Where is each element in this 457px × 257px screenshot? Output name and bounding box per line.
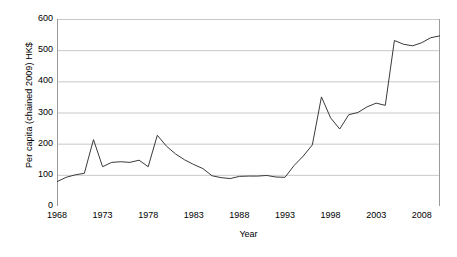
y-axis-tick-label: 0 (23, 201, 53, 210)
x-axis-tick-label: 1968 (37, 210, 77, 221)
x-axis-tick-label: 1978 (128, 210, 168, 221)
plot-svg (57, 19, 440, 206)
y-axis-tick-label: 400 (23, 76, 53, 85)
x-axis-tick-labels: 196819731978198319881993199820032008 (0, 210, 457, 224)
x-axis-tick-label: 1993 (265, 210, 305, 221)
x-axis-tick-label: 1988 (219, 210, 259, 221)
y-axis-tick-label: 600 (23, 14, 53, 23)
x-axis-tick-label: 2008 (402, 210, 442, 221)
data-series-line (57, 36, 440, 182)
x-axis-title: Year (57, 229, 440, 240)
x-axis-tick-label: 1998 (311, 210, 351, 221)
gridlines (57, 20, 440, 207)
y-axis-tick-label: 300 (23, 108, 53, 117)
chart-container: Per capita (chained 2009) HK$ 0100200300… (0, 0, 457, 257)
x-axis-tick-label: 1973 (83, 210, 123, 221)
x-axis-tick-label: 2003 (356, 210, 396, 221)
y-axis-tick-label: 100 (23, 170, 53, 179)
plot-area (57, 19, 440, 206)
y-axis-tick-label: 200 (23, 139, 53, 148)
x-axis-tick-label: 1983 (174, 210, 214, 221)
y-axis-tick-label: 500 (23, 45, 53, 54)
